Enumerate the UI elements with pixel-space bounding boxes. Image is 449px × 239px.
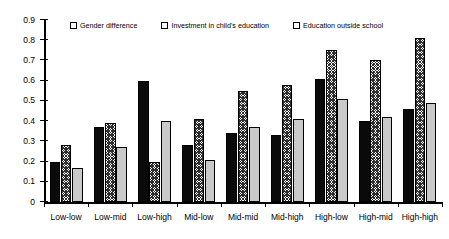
bar-group (271, 20, 304, 202)
x-axis-tick (44, 202, 45, 207)
y-axis-tick: 0.9 (40, 19, 48, 20)
bar-mid-mid-series-1 (238, 91, 249, 202)
bar-high-low-series-2 (337, 99, 348, 202)
bar-mid-high-series-0 (271, 135, 282, 202)
y-axis-tick-label: 0.7 (23, 56, 35, 65)
x-axis-category-label: High-mid (359, 213, 393, 222)
bar-mid-mid-series-0 (226, 133, 237, 202)
y-axis-tick-label: 0.5 (23, 96, 35, 105)
bar-low-high-series-0 (138, 81, 149, 202)
bar-mid-low-series-0 (182, 145, 193, 202)
x-axis-tick (354, 202, 355, 207)
bar-group (50, 20, 83, 202)
bar-high-high-series-0 (403, 109, 414, 202)
bar-high-mid-series-0 (359, 121, 370, 202)
bar-low-low-series-0 (50, 162, 61, 202)
bar-high-high-series-1 (415, 38, 426, 202)
x-axis-tick (88, 202, 89, 207)
y-axis-tick-label: 0.6 (23, 76, 35, 85)
y-axis-tick: 0.2 (40, 161, 48, 162)
x-axis-tick (309, 202, 310, 207)
bar-high-mid-series-1 (370, 60, 381, 202)
bar-mid-mid-series-2 (249, 127, 260, 202)
bar-group (138, 20, 171, 202)
bar-chart: Gender difference Investment in child's … (0, 0, 449, 239)
y-axis-tick-label: 0.9 (23, 15, 35, 24)
y-axis-tick: 0.4 (40, 120, 48, 121)
y-axis-tick: 0.8 (40, 39, 48, 40)
bar-low-mid-series-1 (105, 123, 116, 202)
x-axis-category-label: High-high (402, 213, 438, 222)
y-axis-tick: 0.7 (40, 59, 48, 60)
x-axis-category-label: High-low (315, 213, 348, 222)
x-axis-tick (265, 202, 266, 207)
y-axis-line (44, 20, 46, 202)
bar-high-low-series-0 (315, 79, 326, 202)
bar-group (403, 20, 436, 202)
bar-group (94, 20, 127, 202)
x-axis-line (44, 202, 442, 204)
bar-low-high-series-1 (149, 162, 160, 202)
bar-mid-low-series-1 (194, 119, 205, 202)
bar-group (315, 20, 348, 202)
y-axis-tick-label: 0.4 (23, 116, 35, 125)
bar-high-low-series-1 (326, 50, 337, 202)
bar-group (182, 20, 215, 202)
bar-group (359, 20, 392, 202)
x-axis-tick (132, 202, 133, 207)
x-axis-tick (442, 202, 443, 207)
bar-low-mid-series-0 (94, 127, 105, 202)
x-axis-category-label: Low-low (51, 213, 82, 222)
y-axis-tick: 0.5 (40, 100, 48, 101)
bar-group (226, 20, 259, 202)
bar-low-low-series-2 (72, 168, 83, 202)
bar-mid-high-series-1 (282, 85, 293, 202)
bar-high-mid-series-2 (382, 117, 393, 202)
x-axis-category-label: Mid-mid (228, 213, 258, 222)
y-axis-tick-label: 0.1 (23, 177, 35, 186)
x-axis-category-label: Mid-high (271, 213, 304, 222)
plot-area: 00.10.20.30.40.50.60.70.80.9 (44, 20, 442, 202)
y-axis-tick-label: 0.3 (23, 137, 35, 146)
y-axis-tick-label: 0.8 (23, 35, 35, 44)
x-axis-tick (221, 202, 222, 207)
bar-low-low-series-1 (61, 145, 72, 202)
bar-low-mid-series-2 (116, 147, 127, 202)
y-axis-tick-label: 0.2 (23, 157, 35, 166)
y-axis-tick: 0.6 (40, 80, 48, 81)
x-axis-tick (177, 202, 178, 207)
x-axis-category-label: Mid-low (184, 213, 213, 222)
y-axis-tick: 0.3 (40, 140, 48, 141)
bar-mid-low-series-2 (205, 160, 216, 202)
bar-low-high-series-2 (161, 121, 172, 202)
x-axis-category-label: Low-mid (94, 213, 126, 222)
y-axis-tick: 0.1 (40, 181, 48, 182)
x-axis-tick (398, 202, 399, 207)
y-axis-tick-label: 0 (30, 197, 35, 206)
x-axis-category-label: Low-high (137, 213, 172, 222)
bar-mid-high-series-2 (293, 119, 304, 202)
bar-high-high-series-2 (426, 103, 437, 202)
